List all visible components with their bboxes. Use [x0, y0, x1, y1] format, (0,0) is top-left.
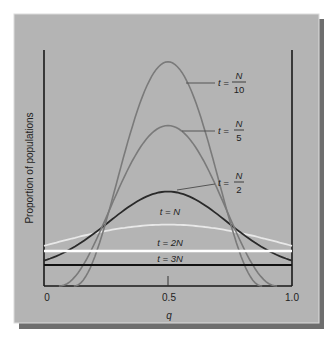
svg-text:N: N [236, 170, 243, 181]
svg-text:2: 2 [236, 184, 241, 195]
svg-text:10: 10 [234, 84, 245, 95]
svg-text:N: N [236, 118, 243, 129]
x-tick-label-1.0: 1.0 [285, 292, 299, 303]
label-t-2N: t = 2N [157, 237, 183, 248]
label-t-N: t = N [160, 206, 180, 217]
svg-text:t =: t = [218, 77, 229, 88]
svg-text:t =: t = [218, 125, 229, 136]
x-tick-label-0.5: 0.5 [162, 292, 176, 303]
chart-figure: t = N 10 t = N 5 t = N 2 t = N t = 2N t … [0, 0, 333, 360]
svg-text:t =: t = [218, 177, 229, 188]
svg-text:5: 5 [236, 132, 241, 143]
x-tick-label-0: 0 [44, 292, 50, 303]
chart-panel [14, 14, 319, 323]
svg-text:N: N [236, 70, 243, 81]
x-axis-label: q [166, 310, 172, 321]
label-t-3N: t = 3N [157, 253, 183, 264]
y-axis-label: Proportion of populations [24, 112, 35, 223]
